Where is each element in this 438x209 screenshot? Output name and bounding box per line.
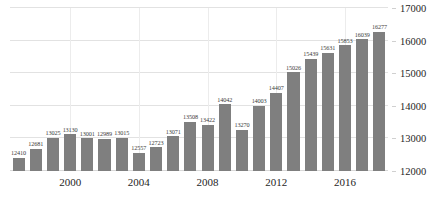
bar-data-label: 12723 — [145, 139, 167, 146]
x-tick-label-2016: 2016 — [334, 176, 356, 188]
bar — [30, 149, 42, 171]
bar-data-label: 14042 — [214, 96, 236, 103]
bar-data-label: 16039 — [351, 31, 373, 38]
y-axis: 120001300014000150001600017000 — [392, 0, 438, 209]
bar — [184, 122, 196, 171]
y-tick-mark-17000 — [392, 8, 396, 9]
bar-data-label: 14407 — [265, 84, 287, 91]
bar — [81, 138, 93, 171]
y-tick-mark-12000 — [392, 171, 396, 172]
bar-chart: 1241012681130251313013001129891301512557… — [0, 0, 438, 209]
y-tick-mark-15000 — [392, 73, 396, 74]
bar-data-label: 13422 — [197, 116, 219, 123]
bar — [133, 153, 145, 171]
bar-data-label: 15631 — [317, 44, 339, 51]
bar — [322, 53, 334, 171]
bar-data-label: 13015 — [111, 129, 133, 136]
bar — [202, 125, 214, 171]
gridline-17000 — [10, 7, 388, 8]
bar-data-label: 13071 — [162, 128, 184, 135]
y-tick-mark-13000 — [392, 138, 396, 139]
x-tick-label-2012: 2012 — [265, 176, 287, 188]
bar — [64, 134, 76, 171]
bar — [219, 104, 231, 171]
bar-data-label: 16277 — [368, 23, 390, 30]
x-tick-label-2008: 2008 — [197, 176, 219, 188]
bar-data-label: 15853 — [334, 37, 356, 44]
bar-data-label: 15026 — [283, 64, 305, 71]
bar — [253, 106, 265, 171]
bar — [236, 130, 248, 171]
bar — [305, 59, 317, 171]
plot-area: 1241012681130251313013001129891301512557… — [10, 8, 388, 171]
y-tick-mark-14000 — [392, 106, 396, 107]
bar — [373, 32, 385, 171]
bar — [270, 93, 282, 171]
x-axis: 20002004200820122016 — [10, 174, 388, 196]
bar-data-label: 13270 — [231, 121, 253, 128]
bar — [116, 138, 128, 171]
x-tick-label-2000: 2000 — [59, 176, 81, 188]
bar-data-label: 12681 — [25, 140, 47, 147]
y-tick-label-14000: 14000 — [400, 100, 426, 111]
y-tick-mark-16000 — [392, 41, 396, 42]
bar — [167, 136, 179, 171]
x-tick-label-2004: 2004 — [128, 176, 150, 188]
y-tick-label-17000: 17000 — [400, 3, 426, 14]
bar — [47, 138, 59, 171]
bar — [13, 158, 25, 171]
y-tick-label-16000: 16000 — [400, 35, 426, 46]
bar — [339, 45, 351, 171]
bar-data-label: 14003 — [248, 97, 270, 104]
bar — [287, 72, 299, 171]
bar — [98, 139, 110, 171]
y-tick-label-15000: 15000 — [400, 68, 426, 79]
bar-data-label: 12410 — [8, 149, 30, 156]
gridline-16000 — [10, 40, 388, 41]
y-tick-label-13000: 13000 — [400, 133, 426, 144]
y-tick-label-12000: 12000 — [400, 166, 426, 177]
bar — [150, 147, 162, 171]
bar — [356, 39, 368, 171]
bar-data-label: 15439 — [300, 50, 322, 57]
